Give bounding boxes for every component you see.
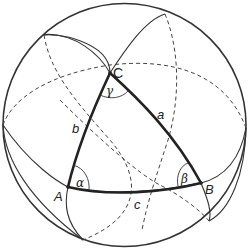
- spherical-triangle-diagram: C A B a b c α β γ: [0, 0, 249, 250]
- vertex-dot-b: [199, 181, 203, 185]
- side-label-a: a: [157, 107, 164, 122]
- great-circle-ac-front: [44, 34, 110, 73]
- side-label-c: c: [134, 197, 141, 212]
- angle-label-beta: β: [180, 172, 188, 186]
- vertex-label-a: A: [53, 189, 63, 204]
- angle-arc-gamma: [100, 91, 128, 98]
- side-label-b: b: [72, 121, 79, 136]
- vertex-label-c: C: [113, 65, 123, 81]
- vertex-label-b: B: [205, 182, 214, 197]
- great-circle-ab-back: [3, 63, 246, 128]
- vertex-dot-a: [66, 185, 70, 189]
- great-circle-ac-upper-front: [44, 35, 110, 73]
- sphere-figure: C A B a b c α β γ: [0, 0, 249, 250]
- triangle-side-a: [110, 73, 201, 183]
- vertex-dot-c: [108, 71, 112, 75]
- angle-label-gamma: γ: [106, 84, 114, 98]
- angle-label-alpha: α: [76, 176, 84, 190]
- great-circle-ac-lower-front: [66, 187, 83, 240]
